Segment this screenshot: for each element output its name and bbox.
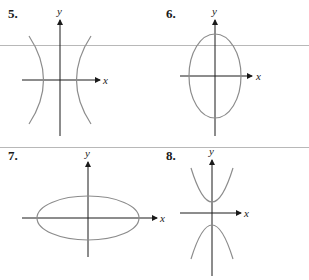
graphs-canvas: x y x y x y x y <box>0 0 309 280</box>
x-axis-label: x <box>243 207 249 219</box>
graph-8: x y <box>180 145 249 276</box>
y-axis-label: y <box>208 145 214 157</box>
x-axis-label: x <box>102 74 108 86</box>
y-axis-label: y <box>56 5 62 17</box>
graph-5: x y <box>22 5 108 136</box>
graph-7: x y <box>22 147 165 257</box>
y-axis-label: y <box>84 147 90 159</box>
x-axis-label: x <box>255 70 261 82</box>
graph-6: x y <box>180 5 261 136</box>
x-axis-label: x <box>159 212 165 224</box>
y-axis-label: y <box>211 5 217 17</box>
